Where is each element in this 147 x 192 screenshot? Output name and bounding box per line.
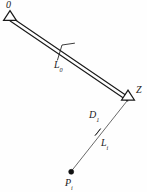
label-baseline-l0: L0 xyxy=(54,60,63,70)
label-distance-subscript: 1 xyxy=(96,116,99,123)
label-leg-base: L xyxy=(101,137,107,148)
label-station-z-text: Z xyxy=(136,84,142,95)
label-station-origin-text: 0 xyxy=(6,0,11,10)
label-point-pi: Pi xyxy=(65,178,73,188)
baseline-lower-rail xyxy=(10,21,128,101)
label-distance-d1: D1 xyxy=(89,110,99,120)
diagram-canvas xyxy=(0,0,147,192)
baseline-upper-rail xyxy=(11,17,129,97)
label-baseline-base: L xyxy=(54,59,60,70)
triangle-icon xyxy=(4,11,17,21)
label-point-subscript: i xyxy=(71,184,73,191)
survey-diagram: 0 Z L0 D1 Li Pi xyxy=(0,0,147,192)
label-baseline-subscript: 0 xyxy=(60,66,63,73)
station-marker-z xyxy=(122,90,135,100)
label-leg-li: Li xyxy=(101,138,108,148)
label-station-z: Z xyxy=(136,85,142,95)
baseline-double-line xyxy=(10,17,128,101)
leader-polyline xyxy=(58,43,75,60)
leg-direction-arrowhead xyxy=(95,129,101,136)
label-station-origin: 0 xyxy=(6,0,11,10)
station-marker-origin xyxy=(4,11,17,21)
triangle-icon xyxy=(122,90,135,100)
point-marker-pi xyxy=(69,169,74,174)
baseline-leader-line xyxy=(58,43,75,60)
filled-dot-icon xyxy=(69,169,74,174)
